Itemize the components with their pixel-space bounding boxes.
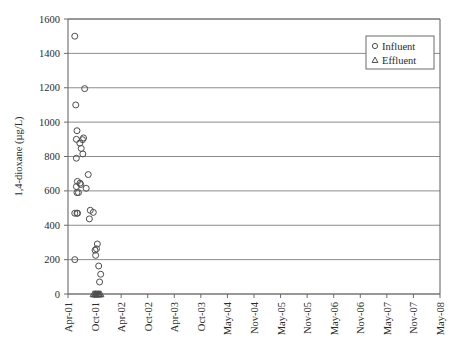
data-point-influent — [97, 279, 103, 285]
y-axis-label: 1,4-dioxane (µg/L) — [13, 116, 25, 197]
y-tick-label: 1600 — [39, 14, 60, 25]
data-point-influent — [73, 102, 79, 108]
legend: InfluentEffluent — [366, 36, 434, 69]
x-tick-label: Oct-03 — [196, 302, 207, 331]
y-tick-label: 1400 — [39, 48, 60, 59]
chart-container: 02004006008001000120014001600 Apr-01Oct-… — [0, 0, 452, 352]
x-tick-label: May-05 — [276, 302, 287, 335]
x-tick-label: Apr-01 — [63, 302, 74, 332]
y-tick-label: 200 — [44, 254, 60, 265]
y-axis-title: 1,4-dioxane (µg/L) — [13, 116, 25, 197]
data-point-influent — [74, 128, 80, 134]
data-point-influent — [85, 172, 91, 178]
x-axis-ticks: Apr-01Oct-01Apr-02Oct-02Apr-03Oct-03May-… — [63, 294, 446, 335]
legend-label: Influent — [382, 41, 415, 52]
y-tick-label: 600 — [44, 185, 60, 196]
x-tick-label: May-06 — [329, 302, 340, 335]
data-point-influent — [81, 135, 87, 141]
data-point-influent — [98, 271, 104, 277]
x-tick-label: Apr-02 — [116, 302, 127, 332]
x-tick-label: Nov-07 — [408, 302, 419, 334]
x-tick-label: Nov-06 — [355, 302, 366, 334]
x-tick-label: May-07 — [382, 302, 393, 335]
data-points — [72, 33, 104, 297]
x-tick-label: May-08 — [435, 302, 446, 335]
y-axis-ticks: 02004006008001000120014001600 — [39, 14, 68, 300]
x-tick-label: Nov-05 — [302, 302, 313, 334]
y-tick-label: 0 — [55, 289, 60, 300]
x-tick-label: Oct-01 — [90, 302, 101, 331]
data-point-influent — [73, 136, 79, 142]
x-tick-label: May-04 — [222, 301, 233, 335]
x-tick-label: Nov-04 — [249, 301, 260, 334]
y-tick-label: 1200 — [39, 82, 60, 93]
x-tick-label: Apr-03 — [169, 302, 180, 332]
y-tick-label: 400 — [44, 220, 60, 231]
legend-label: Effluent — [382, 55, 416, 66]
x-tick-label: Oct-02 — [143, 302, 154, 331]
y-tick-label: 1000 — [39, 117, 60, 128]
data-point-influent — [82, 86, 88, 92]
scatter-plot: 02004006008001000120014001600 Apr-01Oct-… — [0, 0, 452, 352]
data-point-influent — [96, 263, 102, 269]
data-point-influent — [72, 33, 78, 39]
data-point-influent — [86, 216, 92, 222]
y-tick-label: 800 — [44, 151, 60, 162]
